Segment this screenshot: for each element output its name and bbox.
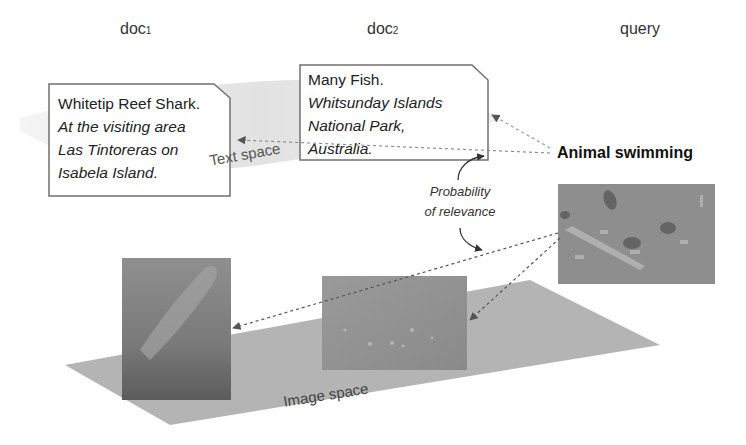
query-to-doc2-text-arrow: [492, 115, 550, 148]
doc2-text-block: Many Fish. Whitsunday Islands National P…: [308, 68, 442, 160]
doc2-desc-line: Whitsunday Islands: [308, 91, 442, 114]
doc2-column-label: doc2: [367, 20, 398, 38]
probability-line-1: Probability: [405, 182, 515, 202]
doc1-column-label: doc1: [120, 20, 151, 38]
doc2-subscript: 2: [393, 25, 399, 36]
doc1-label-text: doc: [120, 20, 146, 37]
diagram-canvas: [0, 0, 746, 445]
probability-line-2: of relevance: [405, 202, 515, 222]
query-column-label: query: [620, 20, 660, 38]
doc2-desc-line: Australia.: [308, 137, 442, 160]
doc2-desc-line: National Park,: [308, 114, 442, 137]
doc1-title: Whitetip Reef Shark.: [58, 92, 200, 115]
probability-of-relevance-label: Probability of relevance: [405, 182, 515, 222]
probability-arrow-down: [460, 228, 482, 250]
doc1-text-block: Whitetip Reef Shark. At the visiting are…: [58, 92, 200, 184]
doc1-desc-line: At the visiting area: [58, 115, 200, 138]
doc2-image-fish: [322, 276, 467, 370]
doc2-label-text: doc: [367, 20, 393, 37]
query-text: Animal swimming: [557, 144, 693, 162]
doc1-desc-line: Las Tintoreras on: [58, 138, 200, 161]
doc1-desc-line: Isabela Island.: [58, 161, 200, 184]
doc1-subscript: 1: [146, 25, 152, 36]
doc2-title: Many Fish.: [308, 68, 442, 91]
